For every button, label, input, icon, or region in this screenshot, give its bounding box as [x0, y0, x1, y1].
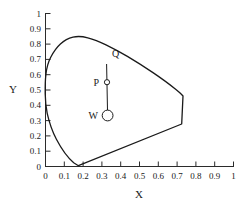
x-tick-label: 0.7	[171, 171, 183, 181]
y-tick-label: 0.9	[30, 24, 42, 34]
y-tick-label: 0.5	[30, 85, 42, 95]
chart-canvas: 0 0.1 0.2 0.3 0.4 0.5 0.6 0.7 0.8 0.9 1 …	[0, 0, 245, 208]
x-tick-label: 0.6	[153, 171, 165, 181]
x-tick-label: 0.1	[59, 171, 70, 181]
x-tick-label: 0.4	[115, 171, 127, 181]
dominant-wavelength-line	[107, 64, 108, 116]
point-label-q: Q	[112, 48, 120, 59]
chromaticity-diagram-figure: 0 0.1 0.2 0.3 0.4 0.5 0.6 0.7 0.8 0.9 1 …	[0, 0, 245, 208]
x-tick-label: 0	[43, 171, 48, 181]
y-tick-label: 0.7	[30, 54, 42, 64]
x-tick-label: 0.8	[190, 171, 202, 181]
point-label-p: P	[93, 77, 99, 88]
x-tick-label: 0.9	[209, 171, 221, 181]
y-tick-label: 0.3	[30, 116, 42, 126]
x-tick-label: 0.3	[96, 171, 108, 181]
y-tick-label: 0	[37, 162, 42, 172]
x-tick-label: 0.5	[134, 171, 146, 181]
x-tick-labels: 0 0.1 0.2 0.3 0.4 0.5 0.6 0.7 0.8 0.9 1	[43, 171, 236, 181]
y-axis-title: Y	[9, 83, 17, 95]
y-tick-label: 0.6	[30, 70, 42, 80]
y-tick-label: 1	[37, 9, 42, 19]
x-tick-label: 0.2	[77, 171, 88, 181]
x-axis-title: X	[135, 188, 143, 200]
y-tick-label: 0.4	[30, 100, 42, 110]
point-label-w: W	[89, 110, 99, 121]
point-marker-p	[104, 80, 109, 85]
y-tick-marks	[46, 14, 51, 167]
x-tick-label: 1	[231, 171, 236, 181]
axes-group	[45, 13, 234, 167]
y-tick-label: 0.2	[30, 131, 41, 141]
point-marker-w	[102, 110, 113, 121]
y-tick-label: 0.1	[30, 146, 41, 156]
y-tick-labels: 0 0.1 0.2 0.3 0.4 0.5 0.6 0.7 0.8 0.9 1	[30, 9, 42, 172]
y-tick-label: 0.8	[30, 39, 42, 49]
